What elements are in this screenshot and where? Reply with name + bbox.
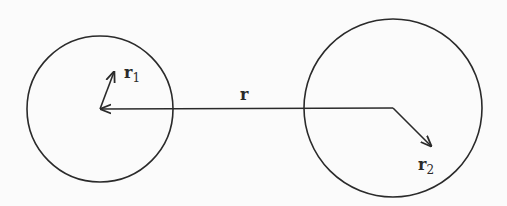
diagram-canvas: r r1 r2 — [0, 0, 507, 206]
vector-r-arrow — [101, 108, 393, 109]
label-r: r — [240, 85, 249, 104]
diagram-svg: r r1 r2 — [0, 0, 507, 206]
label-r2: r2 — [418, 155, 434, 177]
vector-r2-arrow — [393, 108, 431, 146]
vector-r1-arrow — [100, 72, 114, 109]
label-r1: r1 — [124, 63, 140, 85]
